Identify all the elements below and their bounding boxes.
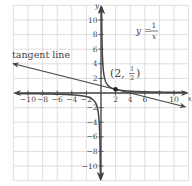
x-tick-label: −10 xyxy=(20,95,36,104)
y-tick-label: 2 xyxy=(93,74,98,83)
y-tick-label: −10 xyxy=(82,162,98,171)
function-label-lhs: y = xyxy=(135,26,152,36)
graph-canvas: −10−8−6−4−224610108642−2−4−6−8−10xytange… xyxy=(0,0,192,186)
x-tick-label: −4 xyxy=(66,95,77,104)
axes xyxy=(15,7,187,179)
x-axis-label: x xyxy=(188,95,192,103)
x-tick-label: 2 xyxy=(113,95,118,104)
y-tick-label: −4 xyxy=(86,118,97,127)
function-label-denominator: x xyxy=(152,32,157,41)
tangent-point xyxy=(113,87,118,92)
y-tick-label: 6 xyxy=(93,45,98,54)
y-tick-label: −2 xyxy=(86,103,97,112)
point-label-close: ) xyxy=(136,67,140,80)
x-tick-label: −6 xyxy=(52,95,63,104)
x-tick-label: 4 xyxy=(128,95,133,104)
x-tick-label: 6 xyxy=(142,95,147,104)
y-tick-label: 8 xyxy=(93,30,98,39)
point-label-open: (2, xyxy=(110,67,125,80)
function-label-numerator: 1 xyxy=(152,21,157,30)
y-tick-label: 10 xyxy=(88,16,98,25)
point-label-numerator: 1 xyxy=(130,65,134,73)
y-tick-label: 4 xyxy=(93,59,98,68)
point-label-denominator: 2 xyxy=(130,74,134,82)
y-tick-label: −6 xyxy=(86,132,97,141)
x-tick-label: 10 xyxy=(169,95,179,104)
y-axis-label: y xyxy=(94,2,100,10)
y-tick-label: −8 xyxy=(86,147,97,156)
x-tick-label: −8 xyxy=(37,95,48,104)
tangent-line-label: tangent line xyxy=(12,49,70,60)
